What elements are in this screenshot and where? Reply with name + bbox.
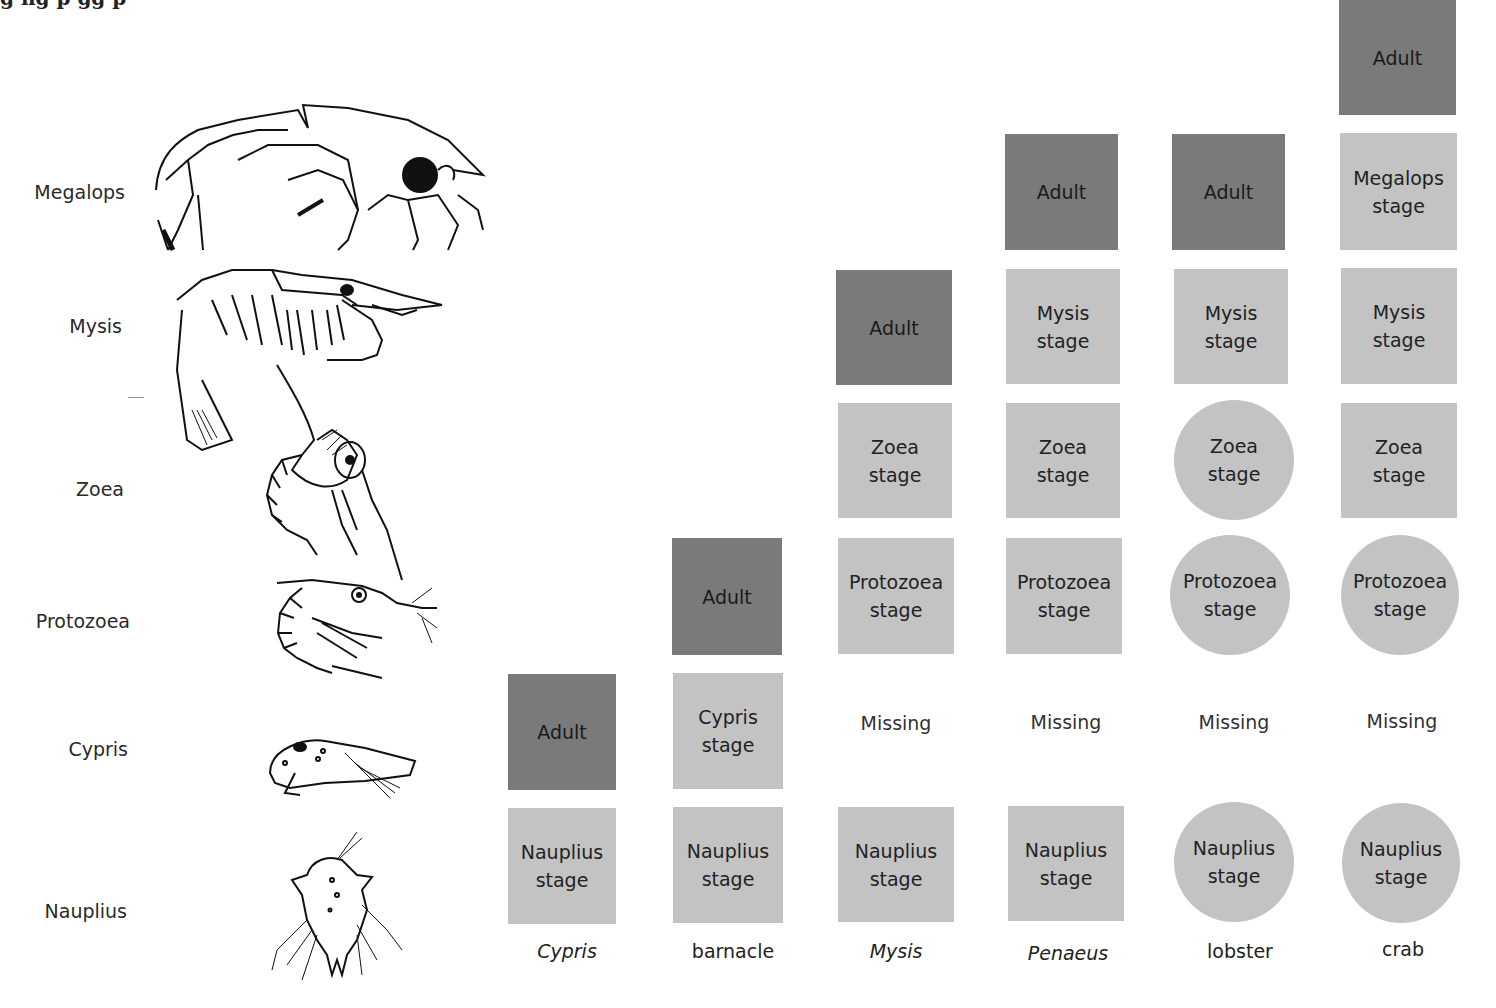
stage-circle-lobster-protozoea: Protozoeastage — [1170, 535, 1290, 655]
missing-label-crab: Missing — [1342, 710, 1462, 732]
stage-box-cypris-adult: Adult — [508, 674, 616, 790]
stage-box-cypris-nauplius: Naupliusstage — [508, 808, 616, 924]
species-label-cypris: Cypris — [497, 940, 637, 962]
zoea-larva-drawing — [262, 360, 412, 585]
stage-box-mysis-adult: Adult — [836, 270, 952, 385]
row-label-mysis: Mysis — [0, 315, 122, 337]
row-label-megalops: Megalops — [0, 181, 125, 203]
row-label-protozoea: Protozoea — [0, 610, 130, 632]
row-label-zoea: Zoea — [0, 478, 124, 500]
species-label-penaeus: Penaeus — [998, 942, 1138, 964]
stage-box-barnacle-cypris: Cyprisstage — [673, 673, 783, 789]
stage-box-mysis-protozoea: Protozoeastage — [838, 538, 954, 654]
missing-label-penaeus: Missing — [1006, 711, 1126, 733]
stage-box-mysis-zoea: Zoeastage — [838, 403, 952, 518]
truncated-caption: g ng p gg p — [0, 0, 700, 8]
stage-box-penaeus-mysis: Mysisstage — [1006, 269, 1120, 384]
species-label-mysis: Mysis — [826, 940, 966, 962]
protozoea-larva-drawing — [272, 578, 442, 683]
stage-box-penaeus-protozoea: Protozoeastage — [1006, 538, 1122, 654]
megalops-larva-drawing — [148, 100, 493, 265]
species-label-crab: crab — [1333, 938, 1473, 960]
row-label-cypris: Cypris — [0, 738, 128, 760]
stage-box-crab-mysis: Mysisstage — [1341, 268, 1457, 384]
stray-mark — [128, 397, 144, 398]
stage-box-barnacle-adult: Adult — [672, 538, 782, 655]
stage-box-lobster-mysis: Mysisstage — [1174, 269, 1288, 384]
cypris-larva-drawing — [265, 733, 420, 813]
stage-box-barnacle-nauplius: Naupliusstage — [673, 807, 783, 923]
stage-circle-crab-nauplius: Naupliusstage — [1342, 803, 1460, 923]
row-label-nauplius: Nauplius — [0, 900, 127, 922]
stage-box-crab-zoea: Zoeastage — [1341, 403, 1457, 518]
stage-box-penaeus-nauplius: Naupliusstage — [1008, 806, 1124, 921]
stage-box-penaeus-adult: Adult — [1005, 134, 1118, 250]
species-label-lobster: lobster — [1170, 940, 1310, 962]
missing-label-mysis: Missing — [836, 712, 956, 734]
stage-box-crab-megalops: Megalopsstage — [1340, 133, 1457, 250]
stage-circle-lobster-nauplius: Naupliusstage — [1174, 802, 1294, 922]
stage-box-crab-adult: Adult — [1339, 0, 1456, 115]
species-label-barnacle: barnacle — [663, 940, 803, 962]
stage-box-penaeus-zoea: Zoeastage — [1006, 403, 1120, 518]
stage-circle-lobster-zoea: Zoeastage — [1174, 400, 1294, 520]
stage-box-mysis-nauplius: Naupliusstage — [838, 807, 954, 922]
stage-circle-crab-protozoea: Protozoeastage — [1341, 535, 1459, 655]
stage-box-lobster-adult: Adult — [1172, 134, 1285, 250]
nauplius-larva-drawing — [272, 830, 407, 980]
missing-label-lobster: Missing — [1174, 711, 1294, 733]
